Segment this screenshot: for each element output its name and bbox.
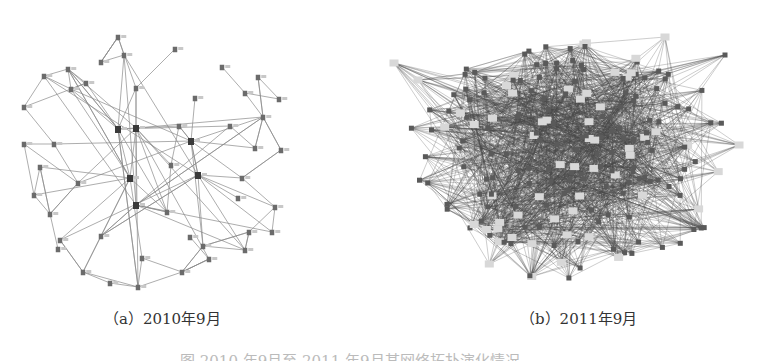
graph-edge (136, 205, 245, 250)
graph-edge (138, 258, 142, 287)
graph-node (417, 178, 422, 183)
graph-node (582, 176, 587, 181)
graph-node (66, 67, 71, 73)
graph-edge (118, 129, 130, 178)
graph-node (604, 184, 609, 189)
graph-node (678, 241, 683, 246)
node-label (245, 176, 250, 179)
graph-node (626, 152, 635, 159)
graph-node (504, 151, 509, 156)
graph-node (554, 142, 559, 147)
graph-node (502, 240, 507, 245)
node-label (195, 139, 200, 142)
node-label (139, 86, 144, 89)
graph-node (527, 273, 532, 278)
node-label (178, 47, 183, 50)
network-graph-2011 (380, 0, 761, 300)
graph-node (220, 65, 225, 71)
graph-node (470, 221, 479, 228)
graph-node (563, 91, 568, 96)
graph-node (661, 34, 670, 41)
graph-node (557, 259, 566, 266)
graph-node (627, 180, 632, 185)
network-diagram-a (0, 0, 330, 300)
graph-node (552, 243, 557, 248)
graph-node (691, 227, 696, 232)
graph-node (610, 128, 615, 133)
graph-node (464, 67, 469, 72)
graph-node (177, 124, 182, 130)
graph-node (188, 138, 194, 145)
graph-node (682, 167, 687, 172)
node-label (122, 127, 127, 130)
graph-node (582, 90, 591, 97)
graph-edge (34, 195, 50, 214)
graph-node (590, 137, 599, 144)
graph-node (694, 205, 703, 212)
graph-node (488, 115, 497, 122)
graph-node (544, 203, 549, 208)
node-label (193, 235, 198, 238)
graph-node (425, 181, 430, 186)
graph-edge (54, 141, 191, 144)
graph-node (508, 241, 513, 246)
graph-node (516, 112, 521, 117)
graph-node (482, 226, 491, 233)
graph-node (534, 62, 539, 67)
graph-node (682, 145, 687, 150)
graph-node (569, 207, 578, 214)
graph-node (456, 109, 465, 116)
graph-edge (124, 55, 198, 175)
node-label (258, 146, 263, 149)
graph-node (644, 130, 649, 135)
graph-node (502, 82, 511, 89)
graph-node (570, 58, 575, 63)
graph-node (207, 257, 212, 263)
graph-node (48, 212, 53, 218)
graph-edge (167, 165, 171, 212)
graph-node (631, 98, 636, 103)
graph-node (518, 78, 523, 83)
graph-node (108, 281, 113, 287)
graph-node (667, 184, 672, 189)
graph-node (678, 176, 683, 181)
graph-node (630, 169, 635, 174)
graph-edge (222, 67, 245, 93)
graph-node (609, 150, 614, 155)
graph-node (656, 178, 661, 183)
graph-node (84, 81, 89, 87)
graph-node (423, 154, 428, 159)
graph-node (579, 172, 584, 177)
graph-edge (191, 98, 195, 141)
graph-node (614, 254, 623, 261)
graph-node (550, 215, 559, 222)
graph-node (686, 106, 691, 111)
graph-node (549, 179, 554, 184)
graph-node (541, 96, 546, 101)
graph-node (572, 79, 577, 84)
graph-node (625, 145, 634, 152)
graph-edge (34, 167, 40, 195)
graph-node (390, 60, 399, 67)
graph-node (485, 125, 490, 130)
graph-node (479, 219, 484, 224)
graph-node (543, 61, 548, 66)
graph-node (445, 202, 450, 207)
graph-node (663, 101, 668, 106)
graph-node (482, 76, 487, 81)
node-label (225, 65, 230, 68)
graph-node (115, 126, 121, 133)
graph-node (134, 86, 139, 92)
graph-edge (68, 69, 86, 83)
graph-node (477, 192, 482, 197)
graph-edge (136, 205, 272, 232)
graph-node (596, 103, 605, 110)
graph-node (414, 77, 423, 84)
graph-node (470, 121, 479, 128)
graph-edge (198, 175, 238, 198)
node-label (81, 181, 86, 184)
node-label (57, 142, 62, 145)
graph-node (570, 163, 579, 170)
graph-node (56, 247, 61, 253)
node-label (282, 97, 287, 100)
